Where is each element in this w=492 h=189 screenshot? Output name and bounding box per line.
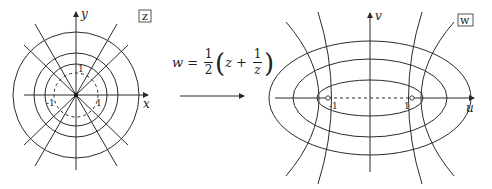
tick-right-1: 1 <box>96 98 102 108</box>
hyperbola-right-outer <box>421 22 454 176</box>
formula-plus: + <box>236 55 247 70</box>
formula-z: z <box>225 55 232 70</box>
mapping-formula: w = 1 2 ( z + 1 z ) <box>172 48 274 77</box>
z-plane: y x 1 -1 1 z <box>13 7 151 170</box>
right-paren: ) <box>264 50 274 76</box>
left-paren: ( <box>215 50 225 76</box>
w-plane: v u -1 1 w <box>269 9 474 184</box>
tick-left-neg1: -1 <box>329 101 338 111</box>
inverse-numerator: 1 <box>254 48 262 61</box>
tick-left-neg1: -1 <box>46 98 55 108</box>
z-plane-label: z <box>142 10 148 23</box>
u-axis-label: u <box>466 101 474 115</box>
origin-dot <box>74 93 78 97</box>
formula-equals: = <box>187 55 198 70</box>
half-denominator: 2 <box>205 64 213 77</box>
w-plane-label: w <box>460 14 470 27</box>
focus-left <box>326 96 330 100</box>
diagram-canvas: y x 1 -1 1 z v u -1 1 <box>0 0 492 189</box>
half-numerator: 1 <box>205 48 213 61</box>
formula-w: w <box>172 55 183 70</box>
tick-top-1: 1 <box>78 64 84 74</box>
v-axis-label: v <box>375 9 382 23</box>
tick-right-1: 1 <box>404 101 410 111</box>
x-axis-label: x <box>143 97 150 111</box>
fraction-inverse-z: 1 z <box>253 48 262 77</box>
focus-right <box>410 96 414 100</box>
fraction-half: 1 2 <box>204 48 213 77</box>
inverse-denominator: z <box>254 64 260 77</box>
y-axis-label: y <box>80 7 88 21</box>
hyperbola-left-outer <box>286 22 319 176</box>
